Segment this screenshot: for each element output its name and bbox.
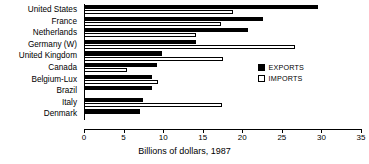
bar-exports (84, 5, 318, 9)
x-axis-tick-label: 10 (151, 133, 175, 142)
y-axis-tick-label: Germany (W) (0, 39, 80, 51)
bar-chart: United States France Netherlands Germany… (0, 0, 369, 164)
legend-label: EXPORTS (269, 63, 305, 72)
y-axis-category-labels: United States France Netherlands Germany… (0, 4, 80, 120)
bar-imports (84, 57, 223, 61)
bar-group (84, 4, 361, 16)
bar-imports (84, 68, 127, 72)
bar-group (84, 39, 361, 51)
bar-exports (84, 63, 157, 67)
x-axis-line: 05101520253035 (84, 129, 361, 130)
x-axis-tick (163, 129, 164, 133)
y-axis-tick-label: United States (0, 4, 80, 16)
y-axis-tick-label: Italy (0, 97, 80, 109)
y-axis-tick-label: Belgium-Lux (0, 74, 80, 86)
bar-exports (84, 109, 140, 113)
bar-group (84, 27, 361, 39)
bar-imports (84, 45, 295, 49)
legend-label: IMPORTS (269, 74, 303, 83)
bar-exports (84, 17, 263, 21)
bar-imports (84, 103, 222, 107)
bar-exports (84, 51, 162, 55)
x-axis-tick-label: 35 (349, 133, 369, 142)
x-axis-tick-label: 0 (72, 133, 96, 142)
bar-exports (84, 75, 152, 79)
legend: EXPORTS IMPORTS (258, 62, 304, 84)
x-axis-tick-label: 20 (230, 133, 254, 142)
y-axis-tick-label: Denmark (0, 108, 80, 120)
x-axis-label: Billions of dollars, 1987 (0, 146, 369, 156)
bar-group (84, 85, 361, 97)
y-axis-tick-label: France (0, 16, 80, 28)
plot-area (84, 4, 361, 120)
x-axis-tick (124, 129, 125, 133)
x-axis-tick (321, 129, 322, 133)
x-axis-tick-label: 25 (270, 133, 294, 142)
x-axis-tick-label: 5 (112, 133, 136, 142)
x-axis-tick (203, 129, 204, 133)
bar-group (84, 50, 361, 62)
bar-imports (84, 22, 221, 26)
bar-group (84, 62, 361, 74)
x-axis-tick-label: 15 (191, 133, 215, 142)
bar-exports (84, 28, 248, 32)
bar-group (84, 108, 361, 120)
filled-square-icon (258, 64, 265, 71)
x-axis-tick (361, 129, 362, 133)
legend-item-imports: IMPORTS (258, 73, 304, 84)
bar-group (84, 97, 361, 109)
x-axis-tick (282, 129, 283, 133)
y-axis-tick-label: Brazil (0, 85, 80, 97)
open-square-icon (258, 75, 265, 82)
bar-imports (84, 80, 158, 84)
y-axis-tick-label: United Kingdom (0, 50, 80, 62)
bar-group (84, 16, 361, 28)
y-axis-tick-label: Netherlands (0, 27, 80, 39)
bar-exports (84, 86, 152, 90)
legend-item-exports: EXPORTS (258, 62, 304, 73)
bar-group (84, 74, 361, 86)
x-axis-tick-label: 30 (309, 133, 333, 142)
x-axis-tick (84, 129, 85, 133)
x-axis-tick (242, 129, 243, 133)
bar-imports (84, 33, 196, 37)
bar-exports (84, 40, 196, 44)
y-axis-tick-label: Canada (0, 62, 80, 74)
bar-exports (84, 98, 143, 102)
bar-imports (84, 10, 233, 14)
